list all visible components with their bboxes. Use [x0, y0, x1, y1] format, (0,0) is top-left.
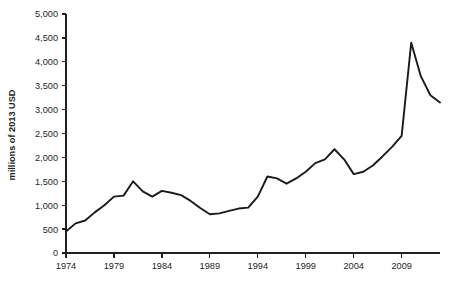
y-tick-label: 4,000 — [35, 57, 58, 67]
data-series — [66, 43, 440, 232]
x-tick-label: 1974 — [56, 261, 76, 271]
x-tick-label: 2009 — [391, 261, 411, 271]
y-tick-label: 3,500 — [35, 81, 58, 91]
data-line-series — [66, 43, 440, 232]
y-tick-label: 4,500 — [35, 33, 58, 43]
x-tick-label: 1999 — [296, 261, 316, 271]
y-tick-label: 5,000 — [35, 9, 58, 19]
y-tick-label: 1,500 — [35, 177, 58, 187]
y-axis: 05001,0001,5002,0002,5003,0003,5004,0004… — [35, 9, 66, 258]
y-tick-label: 3,000 — [35, 105, 58, 115]
line-chart: 05001,0001,5002,0002,5003,0003,5004,0004… — [0, 0, 449, 283]
x-tick-label: 2004 — [343, 261, 363, 271]
y-axis-title: millions of 2013 USD — [7, 89, 17, 180]
chart-container: 05001,0001,5002,0002,5003,0003,5004,0004… — [0, 0, 449, 283]
y-tick-label: 500 — [43, 225, 58, 235]
y-tick-label: 1,000 — [35, 201, 58, 211]
y-tick-label: 0 — [53, 248, 58, 258]
x-tick-label: 1984 — [152, 261, 172, 271]
y-axis-title-label: millions of 2013 USD — [7, 89, 17, 180]
x-tick-label: 1994 — [248, 261, 268, 271]
x-tick-label: 1979 — [104, 261, 124, 271]
y-tick-label: 2,000 — [35, 153, 58, 163]
y-tick-label: 2,500 — [35, 129, 58, 139]
x-axis: 19741979198419891994199920042009 — [56, 253, 440, 271]
x-tick-label: 1989 — [200, 261, 220, 271]
